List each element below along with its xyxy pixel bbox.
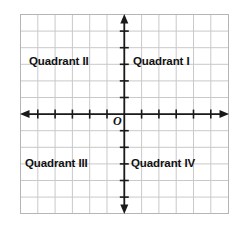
quadrant-3-label: Quadrant III xyxy=(25,158,88,170)
quadrant-1-label: Quadrant I xyxy=(133,56,190,68)
coordinate-plane-figure: Quadrant II Quadrant I Quadrant III Quad… xyxy=(0,0,248,226)
quadrant-2-label: Quadrant II xyxy=(29,56,89,68)
coordinate-plane-graphic xyxy=(0,0,248,226)
origin-label: O xyxy=(113,115,122,127)
quadrant-4-label: Quadrant IV xyxy=(131,158,195,170)
